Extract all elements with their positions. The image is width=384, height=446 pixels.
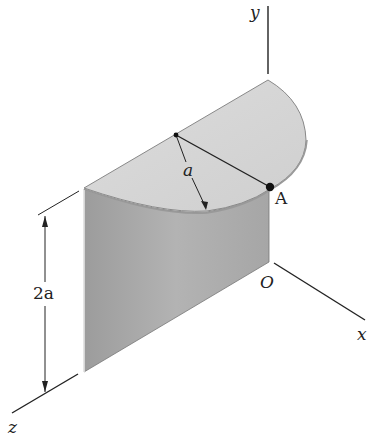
height-label: 2a (33, 283, 54, 303)
y-axis-label: y (249, 2, 260, 22)
point-a-label: A (274, 188, 288, 208)
z-axis-label: z (7, 417, 18, 437)
center-point (174, 133, 179, 138)
diagram-canvas: y x z O A a 2a (0, 0, 384, 446)
x-axis (274, 263, 365, 320)
curved-surface (84, 189, 269, 372)
point-a-marker (266, 183, 274, 191)
x-axis-label: x (357, 324, 367, 344)
top-face (84, 80, 307, 213)
radius-label: a (183, 160, 193, 180)
origin-label: O (260, 272, 274, 292)
